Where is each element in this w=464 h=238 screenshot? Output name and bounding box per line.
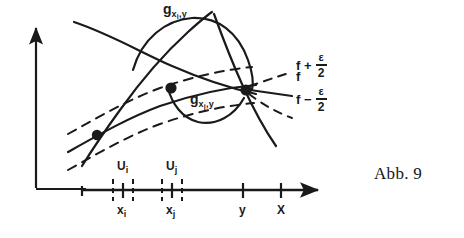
label-y-text: y <box>239 203 246 217</box>
fraction-epsilon-over-two-lower: ε 2 <box>316 86 327 113</box>
curve-rising-through-xi <box>82 12 212 166</box>
curve-g-xi-y <box>74 22 256 94</box>
figure-abb-9: gxi,y gxj,y f + ε 2 f f − ε 2 Ui Uj xi <box>0 0 464 238</box>
fraction-numerator: ε <box>317 86 324 98</box>
label-Ui-subscript: i <box>126 165 129 175</box>
label-interval-Uj: Uj <box>166 160 177 175</box>
tail-f-minus-eps <box>249 94 292 118</box>
label-f-minus-epsilon-half: f − ε 2 <box>296 86 327 113</box>
label-g-xi-base: g <box>163 1 172 17</box>
intersection-dot-xj <box>165 82 176 93</box>
label-g-xi-subscript: xi,y <box>172 9 187 19</box>
figure-caption: Abb. 9 <box>374 165 422 182</box>
figure-drawing <box>0 0 464 238</box>
label-xi-subscript: i <box>124 209 127 219</box>
fraction-denominator: 2 <box>318 66 325 79</box>
label-f-plus-epsilon-half: f + ε 2 <box>296 52 327 79</box>
intersection-dot-y <box>240 84 251 95</box>
label-point-y: y <box>239 204 246 216</box>
label-X-text: X <box>277 203 285 217</box>
label-point-xj: xj <box>166 204 175 219</box>
label-g-xj-y: gxj,y <box>190 92 214 110</box>
label-g-xj-base: g <box>190 91 199 107</box>
fraction-epsilon-over-two-upper: ε 2 <box>316 52 327 79</box>
tail-f-plus-eps <box>250 72 292 86</box>
fraction-denominator: 2 <box>318 100 325 113</box>
label-Ui-base: U <box>117 159 126 173</box>
label-g-xj-subscript: xj,y <box>199 99 214 109</box>
label-Uj-subscript: j <box>175 165 178 175</box>
label-point-X: X <box>277 204 285 216</box>
label-xi-base: x <box>117 203 124 217</box>
label-xj-base: x <box>166 203 173 217</box>
label-f-text: f <box>296 70 300 83</box>
label-g-xi-y: gxi,y <box>163 2 187 20</box>
label-f-minus-text: f − <box>296 93 312 106</box>
label-interval-Ui: Ui <box>117 160 128 175</box>
intersection-dot-xi <box>92 130 102 140</box>
label-f: f <box>296 70 300 83</box>
label-point-xi: xi <box>117 204 126 219</box>
label-Uj-base: U <box>166 159 175 173</box>
y-axis <box>36 28 86 189</box>
fraction-numerator: ε <box>317 52 324 64</box>
number-line <box>82 179 318 201</box>
label-xj-subscript: j <box>173 209 176 219</box>
